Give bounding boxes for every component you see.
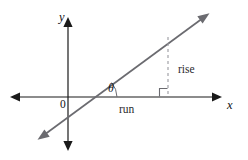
- diagram-canvas: [0, 0, 248, 160]
- run-label: run: [119, 104, 134, 116]
- theta-angle-label: θ: [108, 82, 114, 94]
- slope-line-lower-left-arrowhead: [38, 130, 50, 140]
- y-axis-label: y: [59, 11, 65, 24]
- x-axis-group: [10, 92, 222, 101]
- x-axis-label: x: [227, 99, 233, 112]
- slope-line-upper-right-arrowhead: [197, 13, 209, 23]
- rise-label: rise: [178, 64, 195, 76]
- right-angle-marker: [160, 89, 168, 97]
- x-axis-left-arrowhead: [10, 92, 20, 101]
- origin-label: 0: [60, 99, 66, 111]
- slope-line-group: [38, 13, 210, 140]
- y-axis-bottom-arrowhead: [63, 141, 72, 151]
- x-axis-right-arrowhead: [212, 92, 222, 101]
- slope-diagram-figure: y x 0 θ rise run: [0, 0, 248, 160]
- y-axis-group: [63, 17, 72, 151]
